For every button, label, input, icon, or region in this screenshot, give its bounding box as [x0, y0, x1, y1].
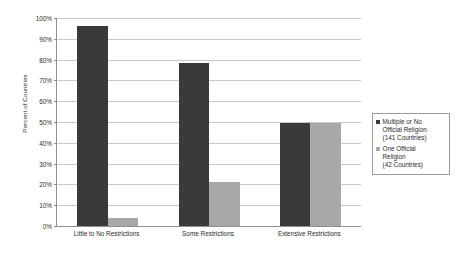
legend-entry: Multiple or No Official Religion (141 Co… — [376, 118, 446, 141]
chart-legend: Multiple or No Official Religion (141 Co… — [372, 113, 450, 175]
legend-label: One Official Religion (42 Countries) — [383, 145, 424, 168]
plot-area — [56, 18, 361, 227]
bar — [108, 218, 139, 226]
bar — [310, 123, 341, 226]
bar-chart: Percent of Countries 0%10%20%30%40%50%60… — [0, 0, 457, 256]
legend-label: Multiple or No Official Religion (141 Co… — [383, 118, 427, 141]
legend-entry: One Official Religion (42 Countries) — [376, 145, 446, 168]
bar — [209, 182, 240, 226]
y-axis-tick-label: 80% — [22, 56, 52, 63]
y-axis-tick-label: 40% — [22, 139, 52, 146]
y-axis-tick-label: 70% — [22, 77, 52, 84]
y-axis-tick-label: 90% — [22, 35, 52, 42]
y-axis-tick-label: 10% — [22, 202, 52, 209]
bar — [77, 26, 108, 226]
y-axis-tick-label: 30% — [22, 160, 52, 167]
x-axis-tick-labels: Little to No RestrictionsSome Restrictio… — [56, 230, 360, 244]
y-axis-tick-label: 50% — [22, 119, 52, 126]
gridline — [57, 226, 361, 227]
y-axis-tick-labels: 0%10%20%30%40%50%60%70%80%90%100% — [22, 18, 52, 226]
bar — [179, 63, 210, 226]
x-axis-tick-label: Some Restrictions — [182, 230, 234, 237]
legend-swatch — [376, 147, 380, 151]
y-axis-tick-label: 60% — [22, 98, 52, 105]
legend-swatch — [376, 120, 380, 124]
y-axis-tick-label: 20% — [22, 181, 52, 188]
x-axis-tick-label: Extensive Restrictions — [278, 230, 341, 237]
y-axis-tickmark — [54, 226, 57, 227]
bar — [280, 123, 311, 226]
y-axis-tick-label: 100% — [22, 15, 52, 22]
y-axis-tick-label: 0% — [22, 223, 52, 230]
bars-layer — [57, 18, 361, 226]
x-axis-tick-label: Little to No Restrictions — [74, 230, 140, 237]
